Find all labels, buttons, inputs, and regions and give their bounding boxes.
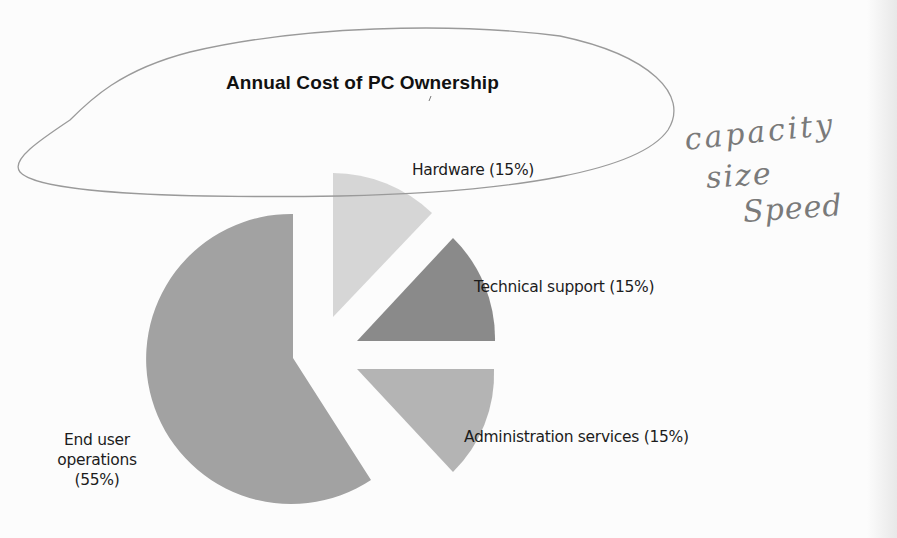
label-end-user-line3: (55%) bbox=[42, 470, 152, 490]
slice-administration-services bbox=[357, 369, 494, 472]
handwritten-note-size: size bbox=[705, 157, 774, 194]
label-end-user-line1: End user bbox=[42, 430, 152, 450]
handdrawn-ellipse bbox=[18, 28, 674, 196]
label-end-user-line2: operations bbox=[42, 450, 152, 470]
label-hardware: Hardware (15%) bbox=[412, 161, 534, 179]
chart-title: Annual Cost of PC Ownership bbox=[226, 72, 499, 94]
label-end-user-operations: End user operations (55%) bbox=[42, 430, 152, 490]
label-technical-support: Technical support (15%) bbox=[474, 278, 654, 296]
handwritten-note-speed: Speed bbox=[742, 189, 843, 228]
label-administration-services: Administration services (15%) bbox=[464, 428, 689, 446]
pen-mark bbox=[429, 96, 431, 101]
